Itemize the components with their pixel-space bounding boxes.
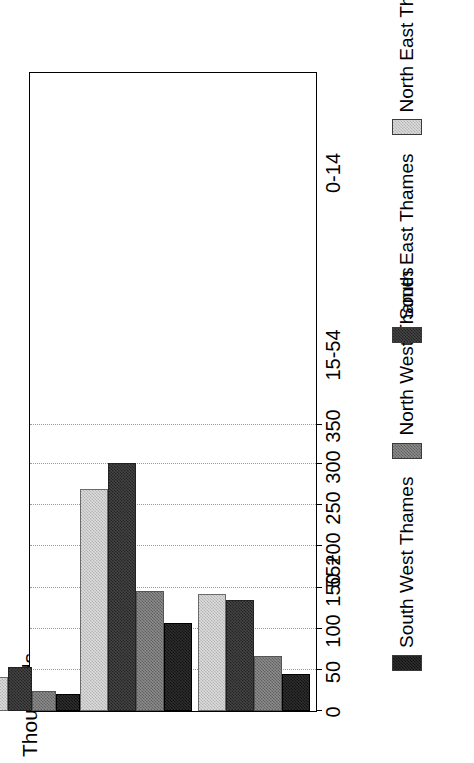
bar-south-west-thames-15-54[interactable] — [164, 623, 192, 711]
bar-south-east-thames-55-plus[interactable] — [8, 667, 32, 711]
gridline-150 — [30, 587, 316, 588]
legend-label-north-east-thames: North East Thames — [396, 0, 418, 112]
gridline-200 — [30, 545, 316, 546]
bar-north-west-thames-15-54[interactable] — [136, 591, 164, 711]
legend-east-group: South East Thames North East Thames — [392, 0, 422, 343]
legend-item-south-east-thames[interactable]: South East Thames — [392, 153, 422, 343]
bar-south-east-thames-15-54[interactable] — [108, 463, 136, 711]
gridline-350 — [30, 424, 316, 425]
north-east-thames-swatch — [392, 119, 422, 135]
bar-chart-figure: Thousands 350 300 — [0, 0, 474, 763]
category-label-55-plus: 55+ — [322, 526, 345, 616]
south-west-thames-swatch — [392, 655, 422, 671]
bar-south-west-thames-0-14[interactable] — [282, 674, 310, 711]
value-tick-label-0: 0 — [322, 682, 345, 742]
bar-south-east-thames-0-14[interactable] — [226, 600, 254, 711]
bar-north-east-thames-15-54[interactable] — [80, 489, 108, 711]
gridline-300 — [30, 463, 316, 464]
category-label-0-14: 0-14 — [322, 128, 345, 218]
south-east-thames-swatch — [392, 327, 422, 343]
bar-south-west-thames-55-plus[interactable] — [56, 694, 80, 711]
gridline-250 — [30, 504, 316, 505]
bar-north-west-thames-55-plus[interactable] — [32, 691, 56, 711]
plot-area — [29, 72, 317, 712]
legend-item-north-east-thames[interactable]: North East Thames — [392, 0, 422, 135]
legend-label-south-west-thames: South West Thames — [396, 477, 418, 648]
category-label-15-54: 15-54 — [322, 310, 345, 400]
north-west-thames-swatch — [392, 443, 422, 459]
bar-north-east-thames-55-plus[interactable] — [0, 677, 8, 711]
legend-item-south-west-thames[interactable]: South West Thames — [392, 477, 422, 671]
bar-north-east-thames-0-14[interactable] — [198, 594, 226, 711]
bar-north-west-thames-0-14[interactable] — [254, 656, 282, 711]
legend-label-south-east-thames: South East Thames — [396, 153, 418, 320]
chart-figure-rotator: Thousands 350 300 — [0, 0, 474, 763]
